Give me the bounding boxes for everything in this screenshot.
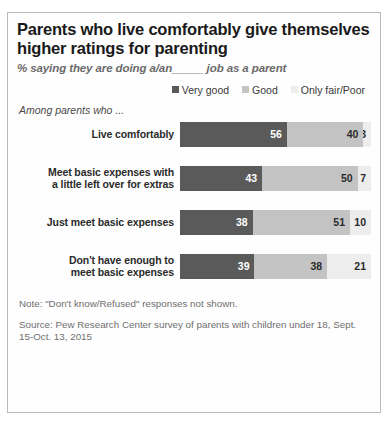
- bar-segment-good: 51: [253, 210, 350, 235]
- table-row: Live comfortably 56 40 3: [17, 122, 371, 147]
- legend-swatch-good-icon: [242, 86, 249, 93]
- chart-frame: Parents who live comfortably give themse…: [7, 12, 381, 413]
- bar-segment-very-good: 39: [180, 254, 254, 279]
- row-label: Live comfortably: [17, 122, 180, 147]
- page-title: Parents who live comfortably give themse…: [17, 20, 371, 59]
- row-label-line2: meet basic expenses: [71, 266, 174, 278]
- legend-item-very-good: Very good: [172, 84, 229, 96]
- group-label: Among parents who ...: [19, 104, 371, 116]
- bar-segment-only-fair-poor: 7: [358, 166, 371, 191]
- legend-label-very-good: Very good: [182, 84, 229, 96]
- bar-track: 43 50 7: [180, 166, 371, 191]
- legend-item-good: Good: [242, 84, 278, 96]
- chart-note: Note: "Don't know/Refused" responses not…: [19, 298, 371, 311]
- chart-source: Source: Pew Research Center survey of pa…: [19, 319, 371, 345]
- row-label-line1: Just meet basic expenses: [47, 216, 174, 228]
- chart-inner: Parents who live comfortably give themse…: [8, 13, 380, 344]
- bar-segment-only-fair-poor: 21: [327, 254, 371, 279]
- table-row: Just meet basic expenses 38 51 10: [17, 210, 371, 235]
- legend-label-only-fair-poor: Only fair/Poor: [301, 84, 365, 96]
- legend-swatch-only-fair-poor-icon: [291, 86, 298, 93]
- row-label: Meet basic expenses with a little left o…: [17, 166, 180, 191]
- row-label-line2: a little left over for extras: [52, 178, 174, 190]
- legend-swatch-very-good-icon: [172, 86, 179, 93]
- row-label: Just meet basic expenses: [17, 210, 180, 235]
- bar-segment-good: 40: [287, 122, 363, 147]
- bar-track: 39 38 21: [180, 254, 371, 279]
- table-row: Meet basic expenses with a little left o…: [17, 166, 371, 191]
- chart-footnotes: Note: "Don't know/Refused" responses not…: [17, 298, 371, 345]
- row-label-line1: Don't have enough to: [69, 254, 174, 266]
- row-label-line1: Live comfortably: [92, 128, 174, 140]
- bar-track: 38 51 10: [180, 210, 371, 235]
- bar-segment-very-good: 56: [180, 122, 287, 147]
- table-row: Don't have enough to meet basic expenses…: [17, 254, 371, 279]
- bar-segment-very-good: 38: [180, 210, 253, 235]
- bar-segment-good: 50: [262, 166, 358, 191]
- legend-item-only-fair-poor: Only fair/Poor: [291, 84, 365, 96]
- bar-segment-only-fair-poor: 10: [350, 210, 371, 235]
- bar-chart-body: Live comfortably 56 40 3 Meet basic expe…: [17, 122, 371, 279]
- bar-segment-only-fair-poor: 3: [363, 122, 371, 147]
- bar-segment-very-good: 43: [180, 166, 262, 191]
- bar-segment-good: 38: [254, 254, 327, 279]
- bar-track: 56 40 3: [180, 122, 371, 147]
- row-label-line1: Meet basic expenses with: [48, 166, 174, 178]
- legend-label-good: Good: [252, 84, 278, 96]
- row-label: Don't have enough to meet basic expenses: [17, 254, 180, 279]
- chart-legend: Very good Good Only fair/Poor: [17, 84, 371, 96]
- chart-subtitle: % saying they are doing a/an_____ job as…: [17, 62, 371, 74]
